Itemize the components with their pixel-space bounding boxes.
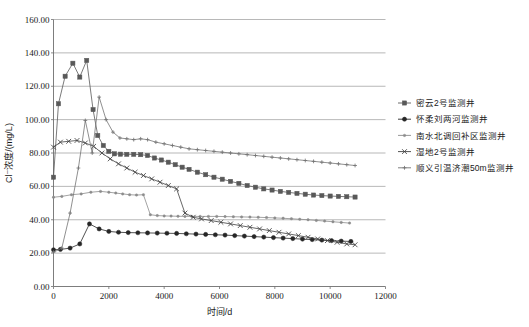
data-point-marker	[104, 118, 108, 122]
data-point-marker	[145, 231, 149, 235]
data-point-marker	[303, 192, 307, 196]
data-point-marker	[320, 160, 324, 164]
data-point-marker	[245, 183, 249, 187]
data-point-marker	[51, 175, 55, 179]
y-tick-label: 120.00	[25, 81, 50, 91]
legend-marker-icon	[403, 134, 406, 137]
data-point-marker	[184, 215, 187, 218]
data-point-marker	[187, 167, 191, 171]
data-point-marker	[229, 151, 233, 155]
data-point-marker	[63, 74, 67, 78]
data-point-marker	[315, 219, 318, 222]
data-point-marker	[187, 147, 191, 151]
data-point-marker	[90, 191, 93, 194]
y-tick-label: 20.00	[29, 248, 50, 258]
x-tick-label: 12000	[374, 291, 397, 301]
data-point-marker	[85, 58, 89, 62]
data-series	[51, 58, 357, 199]
data-point-marker	[90, 151, 94, 155]
data-point-marker	[323, 220, 326, 223]
y-axis-title-text: Cl⁻浓度/(mg/L)	[3, 123, 14, 183]
data-point-marker	[146, 138, 150, 142]
data-point-marker	[270, 155, 274, 159]
data-point-marker	[278, 189, 282, 193]
data-point-marker	[136, 231, 140, 235]
data-point-marker	[158, 180, 163, 185]
data-point-marker	[265, 216, 268, 219]
data-point-marker	[179, 145, 183, 149]
data-point-marker	[115, 192, 118, 195]
data-point-marker	[207, 215, 210, 218]
data-series	[51, 138, 357, 247]
data-point-marker	[107, 229, 111, 233]
legend-item-label: 南水北调回补区监测井	[416, 131, 506, 141]
data-point-marker	[262, 154, 266, 158]
data-point-marker	[287, 190, 291, 194]
data-point-marker	[70, 193, 73, 196]
legend-marker-icon	[402, 117, 406, 121]
x-axis-title: 时间/d	[207, 306, 233, 317]
gridlines-group	[54, 20, 386, 254]
data-point-marker	[83, 141, 88, 146]
data-point-marker	[156, 214, 159, 217]
data-point-marker	[155, 231, 159, 235]
data-point-marker	[78, 75, 82, 79]
data-point-marker	[237, 181, 241, 185]
data-point-marker	[142, 193, 145, 196]
data-point-marker	[337, 162, 341, 166]
data-point-marker	[282, 217, 285, 220]
data-point-marker	[135, 194, 138, 197]
data-point-marker	[204, 173, 208, 177]
data-point-marker	[345, 195, 349, 199]
legend-item[interactable]: 怀柔刘两河监测井	[398, 114, 488, 124]
data-point-marker	[126, 230, 130, 234]
x-axis-tick-labels: 020004000600080001000012000	[51, 287, 397, 301]
data-point-marker	[125, 137, 129, 141]
data-point-marker	[152, 156, 156, 160]
legend-item[interactable]: 顺义引温济潮50m监测井	[398, 163, 514, 173]
data-point-marker	[71, 61, 75, 65]
data-point-marker	[340, 221, 343, 224]
chart-container: 0.0020.0040.0060.0080.00100.00120.00140.…	[0, 0, 529, 327]
legend-item[interactable]: 湿地2号监测井	[398, 147, 475, 157]
data-point-marker	[254, 154, 258, 158]
data-point-marker	[145, 153, 149, 157]
data-point-marker	[56, 102, 60, 106]
data-point-marker	[183, 211, 188, 216]
data-point-marker	[194, 232, 198, 236]
data-point-marker	[257, 216, 260, 219]
data-point-marker	[83, 119, 87, 123]
data-point-marker	[224, 215, 227, 218]
data-point-marker	[132, 152, 136, 156]
data-point-marker	[173, 163, 177, 167]
data-point-marker	[311, 193, 315, 197]
data-point-marker	[274, 217, 277, 220]
data-point-marker	[295, 158, 299, 162]
data-point-marker	[353, 195, 357, 199]
data-point-marker	[312, 159, 316, 163]
data-point-marker	[270, 188, 274, 192]
x-tick-label: 10000	[319, 291, 342, 301]
data-point-marker	[141, 173, 146, 178]
data-point-marker	[242, 234, 246, 238]
series-group	[51, 58, 357, 254]
chart-legend: 密云2号监测井怀柔刘两河监测井南水北调回补区监测井湿地2号监测井顺义引温济潮50…	[398, 98, 514, 173]
legend-item[interactable]: 南水北调回补区监测井	[398, 131, 506, 141]
data-point-marker	[281, 236, 285, 240]
x-tick-label: 6000	[211, 291, 230, 301]
data-point-marker	[220, 177, 224, 181]
data-point-marker	[124, 166, 129, 171]
data-point-marker	[139, 153, 143, 157]
data-point-marker	[132, 138, 136, 142]
data-point-marker	[291, 237, 295, 241]
data-point-marker	[249, 216, 252, 219]
data-point-marker	[118, 152, 122, 156]
y-tick-label: 100.00	[25, 115, 50, 125]
data-point-marker	[233, 234, 237, 238]
data-point-marker	[154, 140, 158, 144]
data-point-marker	[166, 160, 170, 164]
data-point-marker	[121, 193, 124, 196]
data-point-marker	[300, 237, 304, 241]
data-point-marker	[329, 239, 333, 243]
legend-item[interactable]: 密云2号监测井	[398, 98, 475, 108]
